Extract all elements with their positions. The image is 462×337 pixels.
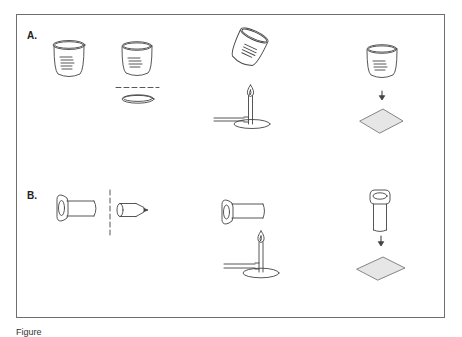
flared-tube-icon-2 (222, 200, 265, 224)
beaker-cut-icon (116, 42, 159, 104)
beaker-on-paper-icon (367, 45, 397, 78)
beaker-icon (53, 41, 85, 77)
upright-tube-icon (370, 190, 390, 232)
flared-tube-icon (57, 195, 96, 221)
bunsen-burner-icon-2 (224, 231, 279, 278)
down-arrow-icon (380, 91, 385, 100)
tube-tip-icon (117, 204, 148, 217)
figure-caption: Figure (16, 327, 42, 337)
down-arrow-icon-2 (379, 236, 384, 246)
paper-sheet-icon (360, 109, 403, 133)
tilted-beaker-icon (228, 25, 270, 69)
bunsen-burner-icon (214, 85, 270, 129)
paper-sheet-icon-2 (357, 257, 405, 280)
